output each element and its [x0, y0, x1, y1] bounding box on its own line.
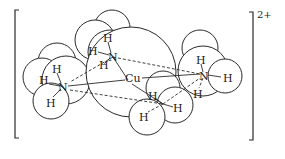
h-label: H: [99, 59, 109, 72]
h-label: H: [46, 97, 56, 110]
h-label: H: [196, 54, 206, 67]
complex-ion-diagram: Cu N H H H N H H H N H H H H H H 2+: [0, 0, 285, 159]
space-filling-model: Cu N H H H N H H H N H H H H H H 2+: [0, 0, 285, 159]
right-bracket: [249, 12, 253, 140]
h-label: H: [39, 74, 49, 87]
h-label: H: [88, 45, 98, 58]
charge-label: 2+: [257, 9, 272, 20]
h-label: H: [139, 111, 149, 124]
h-label: H: [223, 72, 233, 85]
h-label: H: [173, 102, 183, 115]
h-label: H: [103, 32, 113, 45]
left-bracket: [15, 10, 19, 138]
h-label: H: [52, 63, 62, 76]
h-label: H: [148, 90, 158, 103]
h-label: H: [193, 88, 203, 101]
n-label-right: N: [199, 70, 209, 83]
n-label-top: N: [108, 51, 118, 64]
n-label-left: N: [58, 81, 68, 94]
cu-label: Cu: [125, 72, 141, 85]
